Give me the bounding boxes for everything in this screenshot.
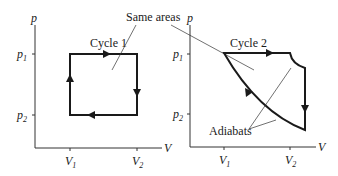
right-x-axis-label: V [318,140,327,154]
left-p1-label: p1 [16,47,27,63]
left-v2-label: V2 [132,154,143,170]
left-p2-label: p2 [16,108,27,124]
left-y-axis-label: p [30,11,37,25]
cycle-1-path [70,54,137,115]
left-x-axis-label: V [164,141,173,155]
adiabats-label: Adiabats [209,124,252,138]
cycle-2-path [224,53,305,130]
same-areas-label: Same areas [126,10,181,24]
cycle-1-title: Cycle 1 [90,36,127,50]
pv-cycles-diagram: p V p1 p2 V1 V2 Cycle 1 Same areas p V p… [0,0,338,176]
right-p1-label: p1 [172,47,183,63]
arrow-right-icon [266,49,274,57]
cycle-2-title: Cycle 2 [230,36,267,50]
left-plot: p V p1 p2 V1 V2 Cycle 1 [16,11,173,170]
arrow-up-icon [66,74,74,82]
left-v1-label: V1 [65,154,76,170]
arrow-right-icon [103,50,111,58]
right-v2-label: V2 [285,153,296,169]
right-v1-label: V1 [219,153,230,169]
arrow-left-icon [87,111,95,119]
right-y-axis-label: p [186,11,193,25]
adiabats-leader-2 [249,120,276,129]
right-p2-label: p2 [172,107,183,123]
arrow-down-icon [133,89,141,97]
right-plot: p V p1 p2 V1 V2 Cycle 2 Adiabats [172,11,327,169]
arrow-down-icon [301,105,309,113]
